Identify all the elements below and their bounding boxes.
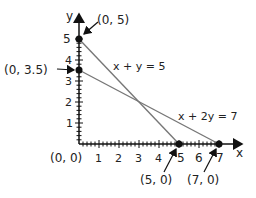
equation-x-plus-2y-eq-7: x + 2y = 7 xyxy=(178,110,237,123)
label-0-0: (0, 0) xyxy=(50,151,82,165)
point-7-0 xyxy=(216,141,223,148)
y-tick-5: 5 xyxy=(63,32,71,46)
y-tick-3: 3 xyxy=(65,75,72,88)
graph: y x 5 4 3 2 1 1 2 3 4 5 6 7 (0, 5) (0, 3… xyxy=(0,0,256,198)
y-tick-1: 1 xyxy=(66,117,73,130)
arrow-7-0 xyxy=(204,149,216,172)
point-5-0 xyxy=(176,141,183,148)
arrow-5-0 xyxy=(164,149,176,172)
x-tick-2: 2 xyxy=(115,152,122,165)
y-tick-2: 2 xyxy=(65,96,72,109)
x-tick-4: 4 xyxy=(155,152,162,165)
x-tick-3: 3 xyxy=(135,152,142,165)
arrow-0-5 xyxy=(84,22,98,34)
x-tick-1: 1 xyxy=(95,152,102,165)
x-tick-6: 6 xyxy=(195,151,203,165)
label-5-0: (5, 0) xyxy=(140,173,172,187)
label-7-0: (7, 0) xyxy=(187,173,219,187)
y-axis-label: y xyxy=(66,9,73,23)
line-x-plus-2y-eq-7 xyxy=(79,70,219,144)
label-0-5: (0, 5) xyxy=(97,13,129,27)
x-ticks xyxy=(83,140,219,148)
x-tick-7: 7 xyxy=(216,151,224,165)
y-tick-4: 4 xyxy=(65,54,72,67)
point-0-5 xyxy=(76,36,83,43)
arrow-0-3.5 xyxy=(57,69,74,70)
label-0-3.5: (0, 3.5) xyxy=(4,63,48,77)
x-axis-label: x xyxy=(236,146,243,160)
line-x-plus-y-eq-5 xyxy=(79,39,179,144)
x-tick-5: 5 xyxy=(177,151,185,165)
point-0-3.5 xyxy=(76,67,83,74)
equation-x-plus-y-eq-5: x + y = 5 xyxy=(113,60,165,73)
